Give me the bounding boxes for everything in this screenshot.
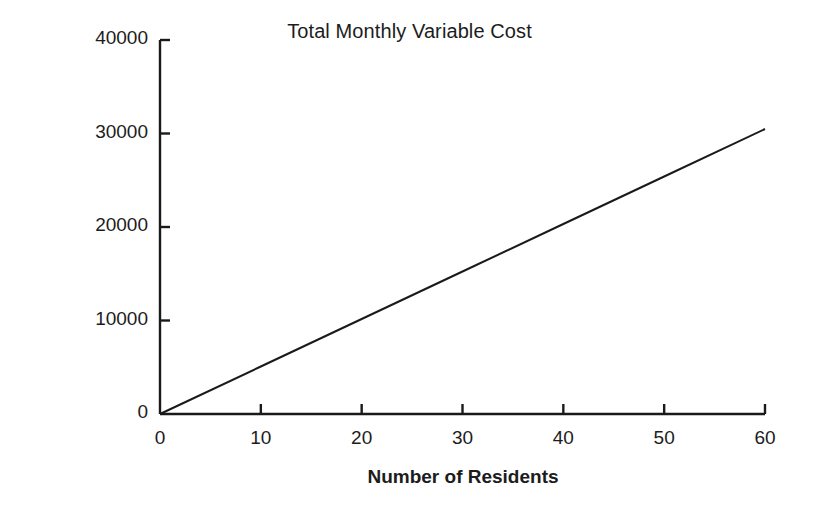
x-axis-tick-labels: 0102030405060 (0, 0, 819, 508)
x-tick-label: 60 (725, 427, 805, 449)
x-tick-label: 0 (120, 427, 200, 449)
x-tick-label: 30 (423, 427, 503, 449)
x-tick-label: 20 (322, 427, 402, 449)
x-tick-label: 10 (221, 427, 301, 449)
chart-figure: Total Monthly Variable Cost Total Monthl… (0, 0, 819, 508)
x-tick-label: 40 (523, 427, 603, 449)
x-tick-label: 50 (624, 427, 704, 449)
